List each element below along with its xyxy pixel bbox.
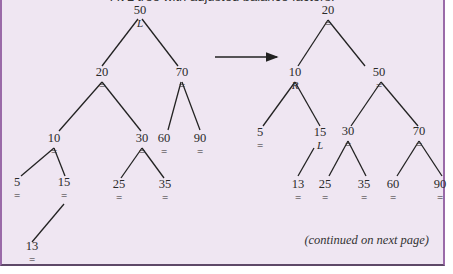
node-value: 5 (14, 175, 20, 189)
tree-edge (59, 82, 102, 131)
balance-factor: = (29, 253, 35, 265)
node-value: 5 (257, 125, 263, 139)
node-value: 25 (319, 177, 332, 191)
tree-node-5: 5= (14, 175, 20, 201)
tree-node-15: 15= (58, 175, 71, 201)
tree-node-5: 5= (257, 125, 263, 151)
tree-node-70: 70= (413, 124, 426, 150)
balance-factor: = (162, 191, 168, 203)
node-value: 35 (159, 177, 172, 191)
node-value: 20 (322, 3, 335, 17)
balance-factor: = (437, 191, 443, 203)
balance-factor: = (361, 191, 367, 203)
tree-node-30: 30= (342, 124, 355, 150)
tree-node-90: 90= (434, 177, 447, 203)
tree-node-90: 90= (194, 131, 207, 157)
balance-factor: = (197, 145, 203, 157)
tree-node-70: 70= (176, 65, 189, 91)
node-value: 13 (292, 177, 305, 191)
node-value: 70 (413, 124, 426, 138)
node-value: 15 (58, 175, 71, 189)
balance-factor: = (51, 145, 57, 157)
tree-node-15: 15L (314, 125, 327, 151)
tree-edge (295, 82, 320, 126)
node-value: 10 (289, 65, 302, 79)
balance-factor: = (139, 145, 145, 157)
node-value: 30 (342, 124, 355, 138)
tree-edge (102, 82, 141, 131)
tree-edge (263, 82, 295, 126)
node-value: 13 (26, 239, 39, 253)
tree-edge (142, 19, 178, 66)
node-value: 25 (113, 177, 126, 191)
tree-node-50: 50= (373, 65, 386, 91)
tree-edge (328, 20, 365, 66)
balance-factor: L (136, 17, 143, 29)
balance-factor: = (390, 191, 396, 203)
node-value: 70 (176, 65, 189, 79)
tree-edge (32, 204, 64, 242)
tree-edge (298, 148, 314, 176)
balance-factor: = (179, 79, 185, 91)
balance-factor: = (376, 79, 382, 91)
balance-factor: = (416, 138, 422, 150)
node-value: 50 (373, 65, 386, 79)
node-value: 90 (434, 177, 447, 191)
balance-factor: = (14, 189, 20, 201)
tree-node-25: 25= (319, 177, 332, 203)
tree-after: 20=10R50=5=15L30=70=13=25=35=60=90= (257, 3, 446, 203)
tree-node-60: 60= (158, 131, 171, 157)
tree-node-25: 25= (113, 177, 126, 203)
tree-edge (419, 141, 442, 176)
balance-factor: = (161, 145, 167, 157)
tree-node-13: 13= (26, 239, 39, 265)
balance-factor: = (322, 191, 328, 203)
avl-rotation-diagram: 50L20=70=10=30=60=90=5=15=25=35=13= 20=1… (2, 0, 447, 266)
node-value: 15 (314, 125, 327, 139)
tree-edge (381, 82, 418, 126)
tree-node-13: 13= (292, 177, 305, 203)
node-value: 90 (194, 131, 207, 145)
tree-edge (102, 19, 138, 66)
tree-before: 50L20=70=10=30=60=90=5=15=25=35=13= (14, 3, 206, 265)
tree-edge (21, 148, 54, 176)
tree-node-10: 10= (48, 131, 61, 157)
tree-node-50: 50L (134, 3, 147, 29)
node-value: 50 (134, 3, 147, 17)
diagram-panel: AVL tree with adjusted balance factors: … (0, 0, 445, 266)
node-value: 60 (387, 177, 400, 191)
balance-factor: R (291, 79, 299, 91)
tree-edge (298, 20, 328, 66)
balance-factor: = (257, 139, 263, 151)
tree-node-35: 35= (159, 177, 172, 203)
balance-factor: = (99, 79, 105, 91)
node-value: 30 (136, 131, 149, 145)
node-value: 35 (358, 177, 371, 191)
tree-node-35: 35= (358, 177, 371, 203)
node-value: 20 (96, 65, 109, 79)
balance-factor: = (116, 191, 122, 203)
balance-factor: = (295, 191, 301, 203)
balance-factor: = (345, 138, 351, 150)
node-value: 10 (48, 131, 61, 145)
balance-factor: L (316, 139, 323, 151)
balance-factor: = (61, 189, 67, 201)
tree-node-60: 60= (387, 177, 400, 203)
continued-note: (continued on next page) (304, 233, 429, 248)
balance-factor: = (325, 17, 331, 29)
node-value: 60 (158, 131, 171, 145)
